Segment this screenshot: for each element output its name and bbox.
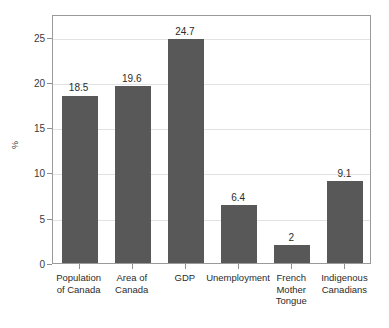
bar-chart: % 0510152025 18.519.624.76.429.1 Populat… bbox=[0, 0, 389, 328]
bar bbox=[327, 181, 363, 263]
x-axis-tick-mark bbox=[238, 264, 239, 269]
bar bbox=[221, 205, 257, 263]
x-axis-tick-mark bbox=[79, 264, 80, 269]
x-axis-tick-mark bbox=[291, 264, 292, 269]
gridline bbox=[53, 220, 370, 221]
bar-value-label: 18.5 bbox=[69, 82, 88, 93]
bar-value-label: 2 bbox=[288, 232, 294, 243]
gridline bbox=[53, 39, 370, 40]
gridline bbox=[53, 84, 370, 85]
y-axis-tick-label: 10 bbox=[34, 168, 45, 179]
bar bbox=[62, 96, 98, 264]
bar-value-label: 6.4 bbox=[231, 192, 245, 203]
gridline bbox=[53, 174, 370, 175]
bar bbox=[274, 245, 310, 263]
y-axis-tick-label: 25 bbox=[34, 32, 45, 43]
x-axis-tick-mark bbox=[132, 264, 133, 269]
bar-value-label: 19.6 bbox=[122, 73, 141, 84]
y-axis-tick-label: 15 bbox=[34, 123, 45, 134]
x-axis-tick-mark bbox=[185, 264, 186, 269]
bar-value-label: 9.1 bbox=[337, 168, 351, 179]
y-axis-tick-mark bbox=[47, 264, 52, 265]
x-axis-category-label: Indigenous Canadians bbox=[311, 272, 378, 295]
y-axis-tick-label: 0 bbox=[39, 259, 45, 270]
bar bbox=[115, 86, 151, 263]
y-axis-tick-labels: 0510152025 bbox=[0, 0, 45, 328]
y-axis-tick-label: 5 bbox=[39, 213, 45, 224]
x-axis-tick-mark bbox=[344, 264, 345, 269]
y-axis-tick-label: 20 bbox=[34, 77, 45, 88]
bar-value-label: 24.7 bbox=[175, 26, 194, 37]
bar bbox=[168, 39, 204, 263]
gridline bbox=[53, 129, 370, 130]
plot-area bbox=[52, 15, 371, 264]
